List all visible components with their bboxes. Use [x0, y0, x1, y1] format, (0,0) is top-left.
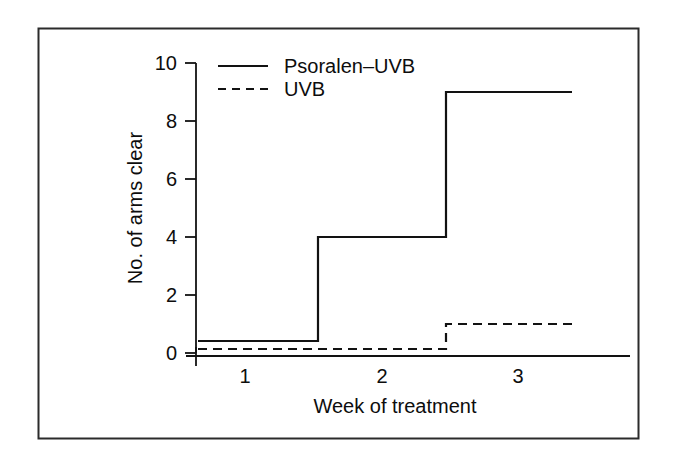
x-tick-label-3: 3 — [512, 365, 523, 387]
y-tick-label-10: 10 — [155, 52, 177, 74]
y-tick-label-4: 4 — [166, 226, 177, 248]
x-tick-label-1: 1 — [239, 365, 250, 387]
x-axis-title: Week of treatment — [313, 395, 476, 417]
y-tick-label-2: 2 — [166, 284, 177, 306]
legend-label-uvb: UVB — [284, 78, 325, 100]
y-tick-label-6: 6 — [166, 168, 177, 190]
figure-panel: 10 8 6 4 2 0 No. of arms clear 1 2 3 Wee… — [0, 0, 677, 472]
y-tick-label-8: 8 — [166, 110, 177, 132]
y-axis-title: No. of arms clear — [124, 132, 146, 285]
legend-label-psoralen-uvb: Psoralen–UVB — [284, 55, 415, 77]
step-chart: 10 8 6 4 2 0 No. of arms clear 1 2 3 Wee… — [0, 0, 677, 472]
x-tick-label-2: 2 — [376, 365, 387, 387]
y-tick-label-0: 0 — [166, 342, 177, 364]
